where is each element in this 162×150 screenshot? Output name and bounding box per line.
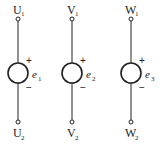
terminal-top: [129, 17, 133, 21]
source-u: U 1 U 2 + − e 1: [8, 3, 42, 142]
voltage-source-symbol: [62, 63, 82, 83]
terminal-top: [16, 17, 20, 21]
plus-sign: +: [139, 55, 145, 66]
emf-label: e: [32, 68, 37, 80]
minus-sign: −: [26, 82, 32, 93]
terminal-label-top-sub: 1: [75, 10, 79, 18]
minus-sign: −: [139, 82, 145, 93]
plus-sign: +: [26, 55, 32, 66]
emf-label-sub: 1: [38, 75, 42, 83]
emf-label-sub: 3: [151, 75, 155, 83]
voltage-source-symbol: [121, 63, 141, 83]
minus-sign: −: [80, 82, 86, 93]
terminal-label-top-sub: 1: [135, 10, 139, 18]
emf-label: e: [145, 68, 150, 80]
terminal-label-top-sub: 1: [21, 10, 25, 18]
terminal-bottom: [16, 120, 20, 124]
plus-sign: +: [80, 55, 86, 66]
source-v: V 1 V 2 + − e 2: [62, 3, 96, 142]
terminal-label-bottom-sub: 2: [75, 134, 79, 142]
emf-label: e: [86, 68, 91, 80]
source-w: W 1 W 2 + − e 3: [121, 3, 155, 142]
voltage-source-symbol: [8, 63, 28, 83]
terminal-bottom: [129, 120, 133, 124]
terminal-bottom: [70, 120, 74, 124]
terminal-label-bottom-sub: 2: [135, 134, 139, 142]
terminal-label-bottom-sub: 2: [21, 134, 25, 142]
terminal-top: [70, 17, 74, 21]
circuit-diagram: U 1 U 2 + − e 1 V 1 V 2 + − e 2 W 1 W 2 …: [0, 0, 162, 150]
emf-label-sub: 2: [92, 75, 96, 83]
